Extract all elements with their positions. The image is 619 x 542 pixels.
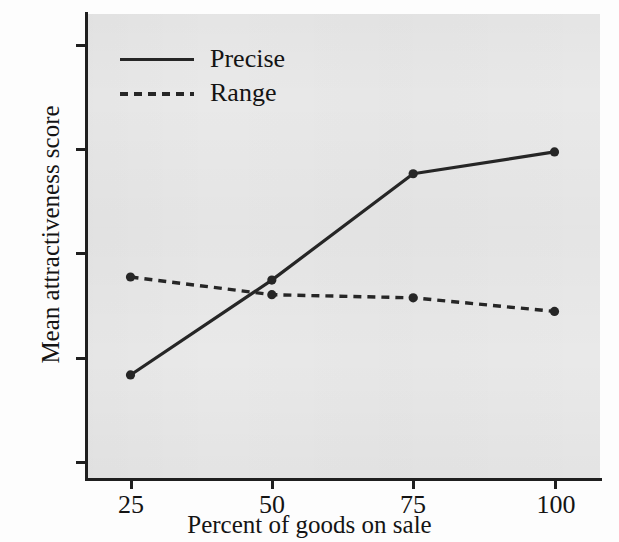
dashed-line-icon <box>118 85 196 101</box>
legend-item-precise[interactable]: Precise <box>118 42 348 76</box>
data-point[interactable] <box>267 290 276 299</box>
chart-figure: 5 4 3 2 1 25 50 75 100 Mean attractivene… <box>0 0 619 542</box>
series-line-precise <box>131 152 555 375</box>
legend-label-precise: Precise <box>196 46 285 72</box>
data-point[interactable] <box>409 293 418 302</box>
series-precise <box>126 147 559 379</box>
legend-label-range: Range <box>196 80 276 106</box>
legend-item-range[interactable]: Range <box>118 76 348 110</box>
data-point[interactable] <box>126 370 135 379</box>
data-point[interactable] <box>550 147 559 156</box>
series-line-range <box>131 277 555 311</box>
series-range <box>126 272 559 316</box>
chart-legend: Precise Range <box>118 42 348 110</box>
data-point[interactable] <box>126 272 135 281</box>
data-point[interactable] <box>267 276 276 285</box>
data-point[interactable] <box>409 169 418 178</box>
solid-line-icon <box>118 51 196 67</box>
data-point[interactable] <box>550 307 559 316</box>
